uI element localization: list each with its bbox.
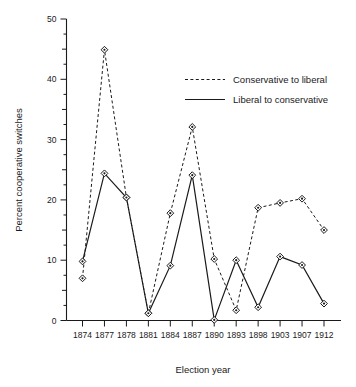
y-tick-label-30: 30: [47, 135, 57, 145]
data-point-center: [103, 49, 105, 51]
chart-figure: 01020304050 1874187718781881188418871890…: [0, 0, 356, 387]
data-point-center: [103, 172, 105, 174]
y-tick-label-10: 10: [47, 255, 57, 265]
x-tick-label-1903: 1903: [271, 330, 290, 340]
x-tick-label-1874: 1874: [73, 330, 92, 340]
data-point-center: [147, 312, 149, 314]
x-tick-label-1907: 1907: [293, 330, 312, 340]
data-point-center: [125, 196, 127, 198]
x-axis-tick-labels: 1874187718781881188418871890189318981903…: [73, 330, 334, 340]
y-axis-minor-ticks: [62, 34, 67, 305]
chart-series-layer: [79, 46, 327, 323]
data-point-center: [191, 126, 193, 128]
series-line-conservative-to-liberal: [83, 50, 325, 314]
y-tick-label-0: 0: [52, 316, 57, 326]
x-axis-title: Election year: [176, 364, 231, 375]
data-point-center: [257, 306, 259, 308]
data-point-center: [323, 229, 325, 231]
data-point-center: [213, 258, 215, 260]
y-axis-tick-labels: 01020304050: [47, 14, 57, 326]
x-tick-label-1887: 1887: [183, 330, 202, 340]
x-tick-label-1890: 1890: [205, 330, 224, 340]
data-point-center: [81, 260, 83, 262]
x-tick-label-1877: 1877: [95, 330, 114, 340]
data-point-center: [279, 255, 281, 257]
x-tick-label-1881: 1881: [139, 330, 158, 340]
y-axis-title: Percent cooperative switches: [13, 108, 24, 232]
y-tick-label-20: 20: [47, 195, 57, 205]
x-tick-label-1878: 1878: [117, 330, 136, 340]
x-tick-label-1893: 1893: [227, 330, 246, 340]
data-point-center: [323, 303, 325, 305]
series-liberal-to-conservative: [79, 170, 327, 323]
data-point-center: [235, 259, 237, 261]
data-point-center: [191, 174, 193, 176]
data-point-center: [257, 207, 259, 209]
data-point-center: [301, 264, 303, 266]
data-point-center: [279, 202, 281, 204]
x-tick-label-1898: 1898: [249, 330, 268, 340]
data-point-center: [169, 212, 171, 214]
x-tick-label-1884: 1884: [161, 330, 180, 340]
y-tick-label-40: 40: [47, 74, 57, 84]
chart-legend: Conservative to liberal Liberal to conse…: [185, 74, 328, 105]
data-point-center: [301, 198, 303, 200]
line-chart: 01020304050 1874187718781881188418871890…: [0, 0, 356, 387]
legend-label-liberal-to-conservative: Liberal to conservative: [233, 94, 328, 105]
data-point-center: [235, 309, 237, 311]
legend-label-conservative-to-liberal: Conservative to liberal: [233, 74, 327, 85]
data-point-center: [169, 265, 171, 267]
x-axis-ticks: [83, 321, 325, 327]
data-point-center: [213, 319, 215, 321]
series-conservative-to-liberal: [79, 46, 327, 316]
y-tick-label-50: 50: [47, 14, 57, 24]
x-tick-label-1912: 1912: [315, 330, 334, 340]
data-point-center: [81, 277, 83, 279]
